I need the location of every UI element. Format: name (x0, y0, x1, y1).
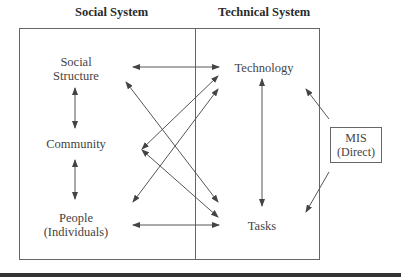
arrow-structure-tasks (126, 82, 218, 202)
connection-arrows (0, 0, 401, 279)
arrow-mis-technology (306, 89, 329, 119)
bottom-rule (0, 273, 401, 277)
arrow-community-tasks (142, 150, 218, 217)
arrow-community-technology (142, 76, 218, 149)
arrow-mis-tasks (306, 172, 329, 212)
